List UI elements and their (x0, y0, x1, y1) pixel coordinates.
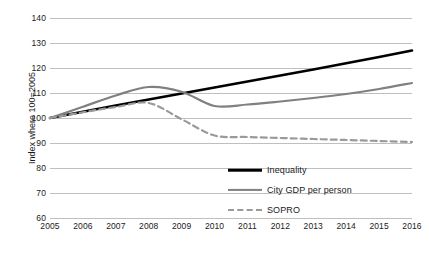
x-tick-label: 2011 (238, 221, 257, 231)
legend-swatch-icon (228, 185, 262, 195)
legend-label: Inequality (267, 165, 307, 175)
x-tick-label: 2012 (271, 221, 290, 231)
y-tick-label: 120 (32, 63, 46, 73)
series-line-city-gdp-per-person (50, 83, 412, 118)
y-tick-label: 100 (32, 113, 46, 123)
legend-swatch-icon (228, 205, 262, 215)
x-axis-tick-labels: 2005200620072008200920102011201220132014… (50, 221, 412, 235)
x-tick-label: 2010 (205, 221, 224, 231)
legend-item-inequality[interactable]: Inequality (228, 160, 403, 180)
y-tick-label: 130 (32, 38, 46, 48)
legend-label: SOPRO (267, 205, 300, 215)
x-tick-label: 2016 (402, 221, 421, 231)
x-tick-label: 2007 (106, 221, 125, 231)
y-tick-label: 90 (36, 138, 46, 148)
x-tick-label: 2013 (304, 221, 323, 231)
chart-legend: InequalityCity GDP per personSOPRO (228, 160, 403, 220)
legend-item-sopro[interactable]: SOPRO (228, 200, 403, 220)
line-chart: Index where 100=2005 6070809010011012013… (0, 0, 429, 259)
x-tick-label: 2005 (40, 221, 59, 231)
y-tick-label: 140 (32, 13, 46, 23)
legend-label: City GDP per person (267, 185, 352, 195)
y-axis-tick-labels: 60708090100110120130140 (18, 18, 46, 218)
y-tick-label: 70 (36, 188, 46, 198)
x-tick-label: 2006 (73, 221, 92, 231)
x-tick-label: 2014 (337, 221, 356, 231)
y-tick-label: 110 (32, 88, 46, 98)
series-line-sopro (50, 102, 412, 142)
x-tick-label: 2008 (139, 221, 158, 231)
x-tick-label: 2015 (369, 221, 388, 231)
legend-item-city-gdp-per-person[interactable]: City GDP per person (228, 180, 403, 200)
y-tick-label: 80 (36, 163, 46, 173)
x-tick-label: 2009 (172, 221, 191, 231)
legend-swatch-icon (228, 165, 262, 175)
